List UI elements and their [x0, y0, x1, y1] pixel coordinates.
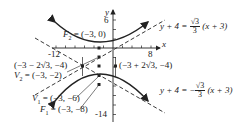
- x-axis-label: x: [162, 40, 166, 49]
- focus-f2-label: F2 = (−3, 0): [63, 30, 106, 41]
- y-tick-6: 6: [104, 16, 109, 25]
- x-tick-minus-12: -12: [48, 50, 60, 59]
- key-points: [81, 47, 117, 87]
- y-tick-minus-14: -14: [95, 110, 107, 119]
- left-vertex-box-label: (−3 − 2√3, −4): [14, 61, 67, 70]
- lower-asymptote-equation: y + 4 = −√33 (x + 3): [160, 82, 232, 99]
- vertex-v2-label: V2 = (−3, −2): [14, 71, 62, 82]
- right-vertex-box-label: (−3 + 2√3, −4): [119, 61, 172, 70]
- x-tick-8: 8: [148, 50, 153, 59]
- x-axis: [52, 46, 160, 49]
- focus-f1-label: F1 = (−3, −8): [40, 105, 88, 116]
- upper-asymptote-equation: y + 4 = √33 (x + 3): [160, 18, 227, 35]
